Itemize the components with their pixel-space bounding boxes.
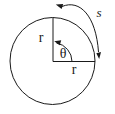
- circle-arc-diagram: r r θ s: [0, 0, 115, 114]
- arc-length-arrowhead-bottom-icon: [96, 52, 101, 59]
- radius-label-horizontal: r: [72, 62, 77, 77]
- arc-length-label: s: [96, 5, 101, 20]
- diagram-svg: r r θ s: [0, 0, 115, 114]
- arc-length-arrowhead-top-icon: [56, 4, 63, 9]
- radius-label-vertical: r: [39, 30, 44, 45]
- angle-label: θ: [60, 46, 67, 61]
